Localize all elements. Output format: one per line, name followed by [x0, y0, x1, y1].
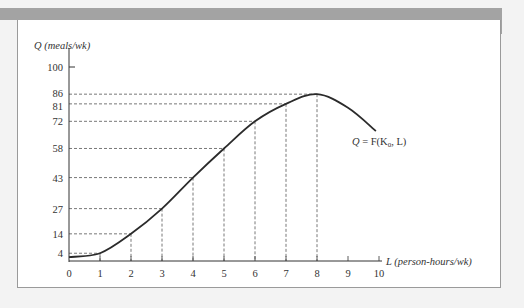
x-axis-title: L (person-hours/wk) — [385, 256, 472, 268]
production-function-chart: 414274358728186100 012345678910 Q (meals… — [0, 0, 524, 308]
production-curve — [69, 94, 376, 257]
x-tick-label: 1 — [97, 268, 102, 279]
x-tick-label: 6 — [252, 268, 257, 279]
y-tick-label: 43 — [53, 173, 64, 184]
y-tick-label: 86 — [53, 88, 64, 99]
x-tick-label: 4 — [190, 268, 196, 279]
y-tick-label: 100 — [47, 62, 63, 73]
x-tick-label: 10 — [374, 268, 385, 279]
x-tick-label: 0 — [66, 268, 71, 279]
x-tick-label: 9 — [345, 268, 350, 279]
y-tick-label: 27 — [53, 204, 64, 215]
y-axis-title: Q (meals/wk) — [34, 40, 91, 52]
x-tick-label: 7 — [283, 268, 288, 279]
x-tick-label: 5 — [221, 268, 226, 279]
y-tick-labels: 414274358728186100 — [47, 62, 64, 259]
y-tick-label: 14 — [53, 229, 64, 240]
y-tick-label: 58 — [53, 143, 64, 154]
x-tick-label: 2 — [128, 268, 133, 279]
y-tick-label: 4 — [58, 248, 64, 259]
x-tick-label: 8 — [314, 268, 319, 279]
x-ticks — [100, 256, 379, 261]
y-tick-label: 81 — [53, 101, 64, 112]
y-tick-label: 72 — [53, 116, 64, 127]
function-label: Q = F(K0, L) — [352, 136, 407, 149]
x-tick-labels: 012345678910 — [66, 268, 384, 279]
x-tick-label: 3 — [159, 268, 164, 279]
